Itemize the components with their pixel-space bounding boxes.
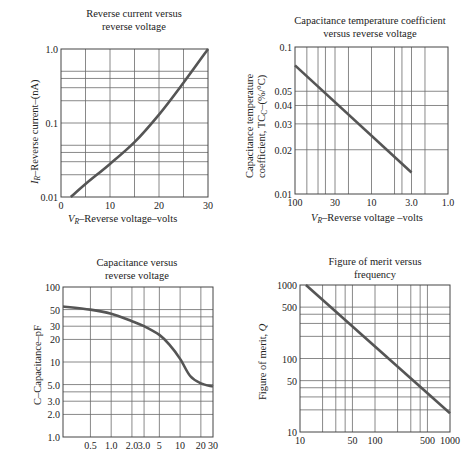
x-tick-label: 30 (208, 440, 218, 450)
y-tick-label: 20 (50, 334, 60, 345)
x-tick-label: 500 (420, 435, 435, 446)
y-tick-label: 50 (287, 376, 297, 387)
y-tick-label: 10 (287, 427, 297, 438)
chart-cap-temp-coeff: Capacitance temperature coefficient vers… (244, 15, 454, 225)
chart2-title-line2: versus reverse voltage (323, 28, 417, 39)
y-tick-label: 100 (282, 354, 297, 365)
chart4-title-line1: Figure of merit versus (328, 256, 421, 267)
chart-reverse-current: Reverse current versus reverse voltage 0… (29, 8, 213, 226)
y-tick-label: 0.04 (275, 100, 293, 111)
chart2-curve (295, 65, 412, 172)
y-tick-label: 30 (50, 321, 60, 332)
x-tick-label: 20 (196, 440, 206, 450)
chart-figure-of-merit: Figure of merit versus frequency 1050100… (257, 256, 460, 446)
x-tick-label: 0.5 (84, 440, 97, 450)
chart2-ylabel-line1: Capacitance temperature (244, 74, 255, 178)
x-tick-label: 3.0 (405, 197, 418, 208)
chart1-ylabel: IR–Reverse current–(nA) (29, 79, 42, 185)
chart4-curve (306, 285, 450, 413)
y-tick-label: 0.01 (41, 192, 59, 203)
chart3-title-line1: Capacitance versus (97, 257, 178, 268)
y-tick-label: 1000 (277, 280, 297, 291)
x-tick-label: 30 (203, 200, 213, 211)
y-tick-label: 1.0 (46, 44, 59, 55)
chart1-title-line1: Reverse current versus (86, 8, 182, 19)
chart3-curve (63, 307, 213, 387)
chart2-ylabel-line2: coefficient, TCC–(%/°C) (256, 74, 269, 178)
chart-capacitance: Capacitance versus reverse voltage 0.51.… (32, 257, 218, 450)
chart1-title-line2: reverse voltage (102, 21, 166, 32)
y-tick-label: 5.0 (48, 380, 61, 391)
x-tick-label: 50 (347, 435, 357, 446)
x-tick-label: 10 (175, 440, 185, 450)
chart4-tick-labels: 1050100500100010501005001000 (277, 280, 460, 446)
chart2-tick-labels: 10030103.01.00.010.020.030.040.050.1 (275, 42, 455, 208)
chart-canvas: Reverse current versus reverse voltage 0… (0, 0, 475, 450)
x-tick-label: 20 (154, 200, 164, 211)
y-tick-label: 0.03 (275, 119, 293, 130)
chart2-xlabel: VR–Reverse voltage –volts (311, 212, 423, 225)
x-tick-label: 3.0 (138, 440, 151, 450)
x-tick-label: 100 (368, 435, 383, 446)
x-tick-label: 2.0 (126, 440, 139, 450)
chart1-tick-labels: 01020300.010.11.0 (41, 44, 214, 211)
chart1-grid (61, 49, 208, 197)
y-tick-label: 1.0 (48, 432, 61, 443)
x-tick-label: 0 (59, 200, 64, 211)
y-tick-label: 2.0 (48, 409, 61, 420)
chart2-title-line1: Capacitance temperature coefficient (294, 15, 445, 26)
y-tick-label: 0.05 (275, 86, 293, 97)
x-tick-label: 1.0 (105, 440, 118, 450)
chart4-ylabel: Figure of merit, Q (257, 323, 268, 400)
x-tick-label: 10 (367, 197, 377, 208)
x-tick-label: 1000 (440, 435, 460, 446)
x-tick-label: 5 (157, 440, 162, 450)
chart1-xlabel: VR–Reverse voltage–volts (68, 213, 177, 226)
y-tick-label: 10 (50, 357, 60, 368)
x-tick-label: 10 (105, 200, 115, 211)
x-tick-label: 30 (330, 197, 340, 208)
y-tick-label: 0.02 (275, 145, 293, 156)
chart2-grid (295, 47, 448, 194)
x-tick-label: 1.0 (442, 197, 455, 208)
chart4-title-line2: frequency (354, 269, 397, 280)
y-tick-label: 0.1 (46, 118, 59, 129)
chart4-grid (300, 285, 450, 432)
y-tick-label: 100 (45, 282, 60, 293)
y-tick-label: 3.0 (48, 396, 61, 407)
y-tick-label: 50 (50, 305, 60, 316)
chart3-title-line2: reverse voltage (105, 270, 169, 281)
y-tick-label: 500 (282, 302, 297, 313)
y-tick-label: 0.01 (275, 189, 293, 200)
y-tick-label: 0.1 (280, 42, 293, 53)
chart3-ylabel: C–Capacitance–pF (32, 325, 43, 405)
